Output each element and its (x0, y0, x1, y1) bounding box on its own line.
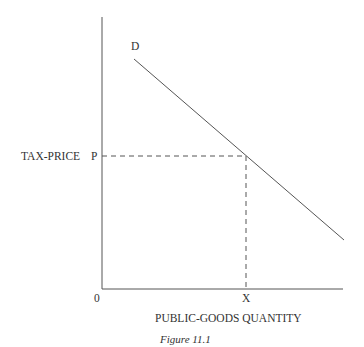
demand-curve (134, 59, 344, 240)
curve-label-d: D (131, 41, 139, 53)
y-axis-label: TAX-PRICE (21, 151, 80, 163)
figure-caption: Figure 11.1 (160, 333, 211, 345)
x-axis-label: PUBLIC-GOODS QUANTITY (155, 313, 302, 325)
diagram-canvas (0, 0, 364, 347)
x-tick-label-x: X (242, 293, 250, 305)
y-tick-label-p: P (91, 151, 97, 163)
origin-label: 0 (94, 293, 100, 305)
